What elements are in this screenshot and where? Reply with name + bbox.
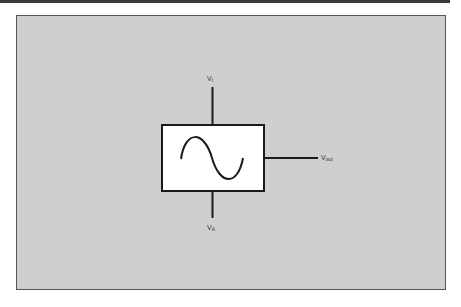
label-v-out: Vout [321,154,333,162]
label-v-bottom: VA [207,224,215,232]
label-v-top: Vt [207,75,213,83]
oscillator-diagram [0,0,461,307]
